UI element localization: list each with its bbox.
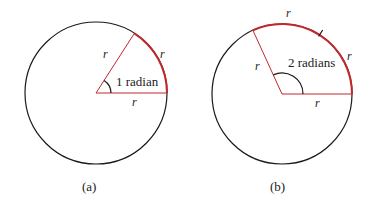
caption-a: (a) bbox=[82, 179, 96, 194]
arc-label-b-right: r bbox=[347, 49, 352, 63]
angle-marker-a bbox=[104, 80, 111, 93]
caption-b: (b) bbox=[270, 179, 285, 194]
arc-label-a: r bbox=[160, 47, 165, 61]
radius-label-a-lower: r bbox=[132, 95, 137, 109]
figure-a: 1 radian r r r (a) bbox=[25, 22, 167, 194]
figure-b: 2 radians r r r r (b) bbox=[212, 6, 352, 194]
angle-label-a: 1 radian bbox=[116, 74, 159, 89]
angle-label-b: 2 radians bbox=[288, 55, 335, 70]
radian-diagram: 1 radian r r r (a) 2 radians r r r r (b) bbox=[0, 0, 371, 207]
radius-label-b-lower: r bbox=[315, 96, 320, 110]
radius-label-a-upper: r bbox=[103, 47, 108, 61]
radius-label-b-upper: r bbox=[255, 59, 260, 73]
arc-label-b-top: r bbox=[286, 6, 291, 20]
